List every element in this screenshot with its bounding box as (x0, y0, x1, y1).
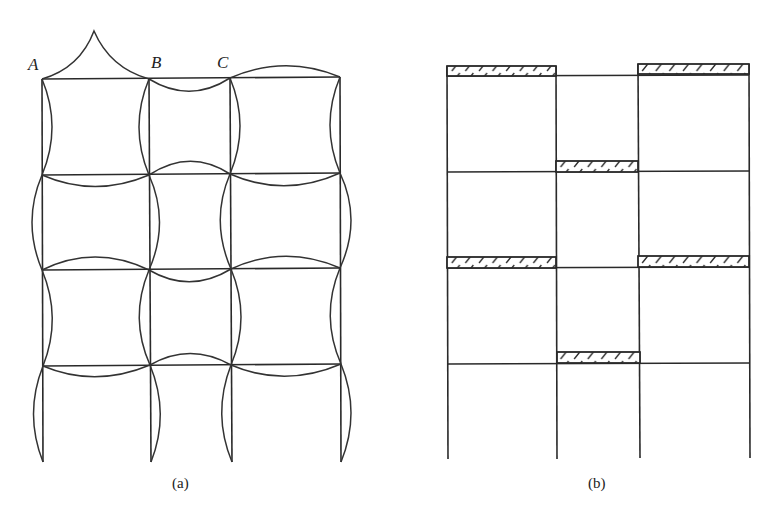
colC-story1 (222, 365, 232, 462)
beam-roof (42, 77, 340, 79)
node-label-a: A (27, 55, 39, 74)
node-label-b: B (151, 53, 162, 72)
figure-canvas: A B C (a) (0, 0, 778, 518)
colB-story4 (139, 79, 149, 175)
colD-story4 (330, 77, 340, 173)
colA-story3 (32, 175, 42, 270)
colD-story3 (340, 173, 351, 268)
roof-bay3-hog (230, 66, 340, 78)
l1-bay1-sag (43, 365, 150, 377)
colC-story2 (231, 269, 241, 365)
roof-bay1-cusp (42, 31, 149, 79)
caption-b: (b) (588, 475, 606, 492)
beam-level-3 (42, 173, 340, 175)
caption-a: (a) (172, 475, 189, 492)
colA-story4 (42, 79, 52, 175)
l3-bay3-sag (230, 173, 340, 186)
colA-story2 (42, 270, 52, 366)
l3-bay1-sag (42, 175, 149, 187)
node-label-c: C (217, 53, 229, 72)
l2-bay3-hog (231, 256, 340, 269)
l2-bay1-hog (42, 257, 149, 270)
load-roof-bay1 (447, 66, 556, 76)
load-level1-bay2 (557, 352, 640, 363)
load-level2-bay3 (638, 256, 749, 267)
load-roof-bay3 (638, 64, 749, 74)
l1-bay2-hog (150, 354, 231, 366)
colD-story1 (341, 364, 351, 462)
panel-a-deflected-frame: A B C (a) (27, 31, 351, 492)
l3-bay2-hog (149, 161, 230, 175)
beam-level-2 (42, 268, 340, 270)
load-level3-bay2 (556, 161, 638, 172)
colD-story2 (330, 268, 341, 364)
l2-bay2-sag (149, 269, 231, 282)
colC-story3 (220, 174, 231, 269)
colC-story4 (230, 78, 240, 174)
colA-story1 (34, 366, 44, 462)
load-level2-bay1 (447, 257, 556, 268)
colB-story2 (139, 270, 150, 365)
panel-a-beam-curves (42, 31, 341, 377)
panel-a-beams (42, 77, 341, 366)
panel-b-loads (447, 64, 749, 363)
l1-bay3-sag (231, 364, 341, 376)
beam-level-1 (43, 364, 341, 366)
panel-b-load-pattern: (b) (447, 64, 750, 492)
panel-b-beams (447, 75, 750, 364)
roof-bay2-sag (149, 78, 230, 91)
